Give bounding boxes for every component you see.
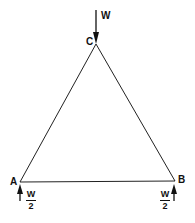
apex-load-label: W	[101, 11, 110, 21]
member-ab	[20, 181, 175, 182]
node-label-b: B	[178, 175, 185, 185]
reaction-a-denominator: 2	[26, 201, 36, 211]
reaction-b-numerator: W	[160, 190, 170, 201]
load-arrow-w-icon	[93, 10, 99, 44]
node-label-c: C	[86, 37, 93, 47]
reaction-a-numerator: W	[26, 190, 36, 201]
reaction-arrow-a-icon	[17, 184, 23, 201]
reaction-b-fraction: W 2	[160, 190, 170, 211]
member-cb	[96, 44, 175, 181]
reaction-a-fraction: W 2	[26, 190, 36, 211]
node-label-a: A	[10, 177, 17, 187]
reaction-b-denominator: 2	[160, 201, 170, 211]
member-ac	[20, 44, 96, 182]
reaction-arrow-b-icon	[171, 184, 177, 201]
